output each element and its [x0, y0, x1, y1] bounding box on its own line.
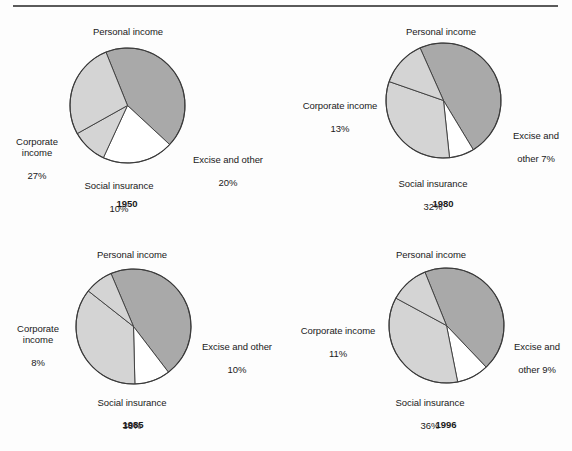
pie-svg-1985	[75, 268, 192, 385]
label-text: Personal income	[97, 249, 167, 260]
label-value: 11%	[329, 348, 347, 359]
label-text: Corporateincome	[16, 136, 58, 159]
label-value: 10%	[228, 364, 247, 375]
pie-panel-1980: Personal income 48% Corporate income 13%…	[286, 0, 572, 225]
label-corporate-income-1980: Corporate income 13%	[288, 88, 392, 134]
pie-panel-1996: Personal income 44% Corporate income 11%…	[286, 225, 572, 450]
pie-svg-1980	[385, 42, 502, 159]
pie-chart-1985	[75, 268, 192, 385]
label-text: Excise and other	[193, 154, 263, 165]
label-text: Excise and	[514, 341, 560, 352]
label-text: Excise and other	[202, 341, 272, 352]
label-text: Corporate income	[301, 325, 376, 336]
label-value: 8%	[31, 357, 45, 368]
label-value: other 9%	[518, 364, 556, 375]
pie-svg-1996	[388, 267, 505, 384]
pie-panel-1985: Personal income 46% Corporateincome 8% S…	[0, 225, 286, 450]
label-excise-and-other-1980: Excise and other 7%	[500, 118, 572, 164]
label-text: Personal income	[93, 26, 163, 37]
label-corporate-income-1996: Corporate income 11%	[286, 313, 390, 359]
year-label-1996: 1996	[416, 419, 476, 430]
label-text: Corporateincome	[17, 323, 59, 346]
pie-chart-1950	[69, 47, 186, 164]
label-text: Social insurance	[85, 180, 154, 191]
label-text: Social insurance	[98, 397, 167, 408]
label-text: Corporate income	[303, 100, 378, 111]
label-value: 20%	[219, 177, 238, 188]
label-excise-and-other-1950: Excise and other 20%	[178, 142, 278, 188]
label-text: Personal income	[406, 26, 476, 37]
label-value: 27%	[28, 170, 47, 181]
label-excise-and-other-1985: Excise and other 10%	[188, 329, 286, 375]
label-corporate-income-1985: Corporateincome 8%	[2, 311, 74, 369]
label-value: 13%	[331, 123, 350, 134]
label-excise-and-other-1996: Excise and other 9%	[502, 329, 572, 375]
year-label-1985: 1985	[103, 419, 163, 430]
pie-chart-1996	[388, 267, 505, 384]
year-label-1950: 1950	[97, 198, 157, 209]
pie-chart-1980	[385, 42, 502, 159]
label-text: Social insurance	[396, 397, 465, 408]
label-text: Personal income	[396, 249, 466, 260]
label-text: Social insurance	[399, 178, 468, 189]
pie-svg-1950	[69, 47, 186, 164]
year-label-1980: 1980	[413, 198, 473, 209]
label-text: Excise and	[513, 130, 559, 141]
label-value: other 7%	[517, 153, 555, 164]
pie-panel-1950: Personal income 43% Corporateincome 27% …	[0, 0, 286, 225]
